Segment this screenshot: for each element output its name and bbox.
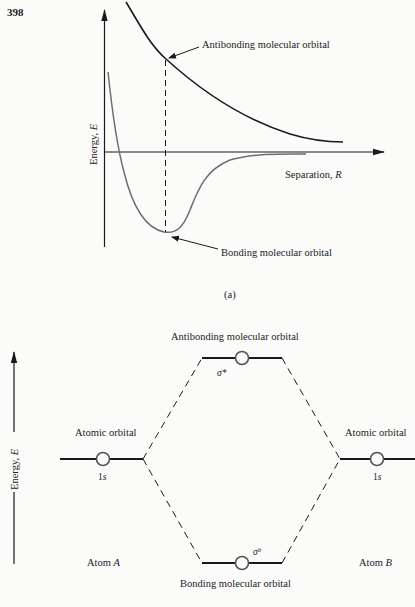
separation-axis-label: Separation, R bbox=[285, 169, 342, 180]
bonding-mo-label: Bonding molecular orbital bbox=[180, 578, 291, 589]
left-atomic-orbital-label: Atomic orbital bbox=[75, 427, 137, 438]
antibonding-mo-level bbox=[202, 352, 282, 365]
bonding-orbital-circle bbox=[236, 557, 249, 570]
antibonding-curve bbox=[126, 2, 343, 142]
atom-b-orbital bbox=[340, 453, 415, 466]
atom-b-1s-orbital-circle bbox=[371, 453, 384, 466]
right-orbital-name: 1s bbox=[373, 472, 382, 482]
sigma-b-symbol: σb bbox=[253, 546, 262, 557]
mo-energy-level-diagram: Energy, E Atomic orbital 1s Atomic orbit… bbox=[6, 331, 415, 589]
bonding-label: Bonding molecular orbital bbox=[221, 247, 332, 258]
antibonding-orbital-circle bbox=[236, 352, 249, 365]
antibonding-pointer-arrow bbox=[169, 47, 199, 58]
right-atomic-orbital-label: Atomic orbital bbox=[345, 427, 407, 438]
energy-axis-label-b: Energy, E bbox=[9, 448, 20, 490]
atom-b-label: Atom B bbox=[359, 557, 393, 568]
atom-a-label: Atom A bbox=[87, 557, 121, 568]
antibonding-mo-label: Antibonding molecular orbital bbox=[171, 331, 299, 342]
antibonding-label: Antibonding molecular orbital bbox=[202, 39, 330, 50]
left-orbital-name: 1s bbox=[98, 472, 107, 482]
molecular-orbital-figure: 398 Antibonding molecular orbital Bondin… bbox=[0, 0, 415, 607]
correlation-dashed-lines bbox=[143, 358, 340, 563]
sigma-star-symbol: σ* bbox=[217, 368, 227, 378]
atom-a-orbital bbox=[60, 453, 143, 466]
bonding-pointer-arrow bbox=[172, 237, 218, 249]
figure-caption-a: (a) bbox=[224, 289, 236, 301]
energy-axis-label: Energy, E bbox=[88, 123, 99, 165]
page-number: 398 bbox=[7, 6, 24, 18]
atom-a-1s-orbital-circle bbox=[97, 453, 110, 466]
bonding-mo-level bbox=[202, 557, 282, 570]
energy-vs-separation-plot: Antibonding molecular orbital Bonding mo… bbox=[88, 2, 384, 301]
